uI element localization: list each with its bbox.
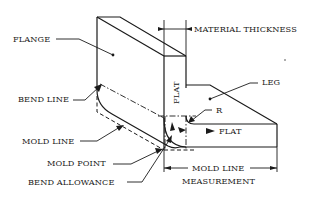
material-thickness-dimension	[158, 20, 192, 56]
leg-label: LEG	[262, 77, 280, 87]
material-thickness-label: MATERIAL THICKNESS	[194, 24, 297, 34]
flat-arrow-icon	[206, 128, 215, 134]
mold-line-label: MOLD LINE	[22, 136, 74, 146]
sheet-metal-bend-diagram: MATERIAL THICKNESS FLAT FLANGE LEG BEND …	[0, 0, 321, 203]
bend-line-label: BEND LINE	[18, 94, 69, 104]
leg-leader	[210, 83, 258, 99]
flange-leader	[56, 39, 113, 55]
mold-line-measurement-label-1: MOLD LINE	[192, 163, 244, 173]
flat-horizontal-label: FLAT	[219, 126, 242, 136]
flat-vertical-label: FLAT	[171, 81, 181, 104]
flange-label: FLANGE	[13, 34, 50, 44]
mold-point-leader	[113, 151, 158, 164]
bend-allowance-label: BEND ALLOWANCE	[28, 177, 115, 187]
bend-region	[97, 84, 196, 150]
mold-point-label: MOLD POINT	[47, 158, 106, 168]
mold-line-measurement-label-2: MEASUREMENT	[182, 176, 255, 186]
mold-line-leader	[80, 127, 120, 141]
r-label: R	[216, 105, 223, 115]
speck	[284, 59, 286, 61]
r-leader	[191, 110, 212, 121]
